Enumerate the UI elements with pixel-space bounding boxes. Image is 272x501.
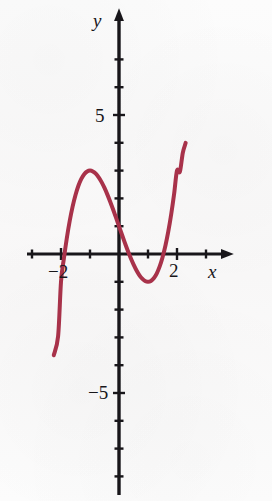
function-plot-figure: −2 2 5 −5 x y [0, 0, 272, 501]
x-axis [27, 248, 222, 260]
x-tick-label-2: 2 [169, 261, 179, 280]
plot-canvas [0, 0, 272, 501]
y-tick-label-minus5: −5 [88, 383, 108, 402]
y-tick-label-5: 5 [95, 106, 105, 125]
x-tick-label-minus2: −2 [48, 262, 68, 281]
x-axis-label: x [208, 262, 216, 281]
y-axis-label: y [93, 11, 101, 30]
y-axis [113, 20, 125, 495]
